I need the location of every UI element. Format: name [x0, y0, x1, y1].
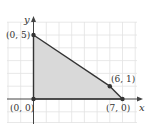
y-axis-label: y	[23, 14, 30, 25]
label-7-0: (7, 0)	[106, 103, 130, 113]
vertex-origin	[31, 97, 35, 101]
feasible-region-diagram: y x (0, 5) (6, 1) (0, 0) (7, 0)	[0, 0, 148, 127]
x-axis-arrow-icon	[137, 97, 143, 102]
x-axis-label: x	[139, 102, 145, 113]
label-6-1: (6, 1)	[111, 74, 135, 84]
y-axis-arrow-icon	[31, 16, 36, 22]
vertex-6-1	[108, 84, 112, 88]
vertex-7-0	[120, 97, 124, 101]
label-0-5: (0, 5)	[6, 30, 30, 40]
label-origin: (0, 0)	[10, 103, 34, 113]
vertex-0-5	[31, 33, 35, 37]
